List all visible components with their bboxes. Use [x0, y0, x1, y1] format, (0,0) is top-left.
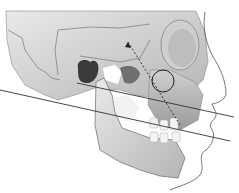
- skull-figure: [0, 0, 239, 193]
- orbit-shadow: [168, 29, 196, 67]
- teeth: [150, 118, 180, 143]
- skull-illustration: [0, 0, 239, 193]
